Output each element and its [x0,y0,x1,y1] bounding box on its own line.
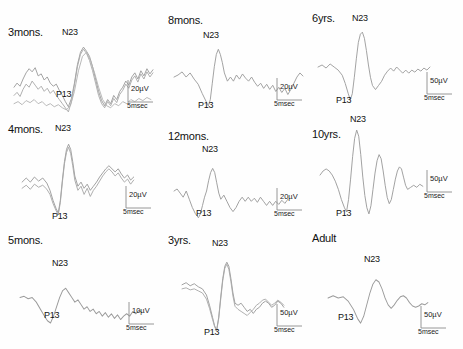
peak-label-p13: P13 [204,327,219,337]
calibration-time: 5msec [424,192,445,199]
calibration-time: 5msec [126,324,147,331]
panel-10yrs: 10yrs. N23 P13 50µV 5msec [312,118,460,230]
calibration-amplitude: 20µV [280,82,298,91]
calibration-bar-6yrs: 50µV 5msec [422,70,458,102]
peak-label-n23: N23 [202,144,218,154]
peak-label-n23: N23 [350,114,366,124]
calibration-bar-8mons: 20µV 5msec [272,76,308,108]
trace-line [174,168,288,217]
calibration-bar-12mons: 20µV 5msec [272,186,308,218]
trace-line [22,144,134,213]
calibration-amplitude: 50µV [430,174,448,183]
calibration-time: 5msec [424,94,445,101]
peak-label-p13: P13 [52,211,67,221]
panel-12mons: 12mons. N23 P13 20µV 5msec [168,130,316,230]
age-label-4mons: 4mons. [8,123,43,135]
calibration-time: 5msec [274,100,295,107]
age-label-8mons: 8mons. [168,14,203,26]
calibration-time: 5msec [274,326,295,333]
panel-3yrs: 3yrs. N23 P13 50µV 5msec [168,234,318,344]
calibration-amplitude: 20µV [131,84,149,93]
peak-label-p13: P13 [196,208,211,218]
peak-label-p13: P13 [338,312,353,322]
age-label-adult: Adult [312,232,336,244]
calibration-bar-10yrs: 50µV 5msec [422,168,458,200]
peak-label-p13: P13 [44,310,59,320]
panel-6yrs: 6yrs. N23 P13 50µV 5msec [312,12,460,120]
panel-4mons: 4mons. N23 P13 20µV 5msec [8,123,158,233]
peak-label-n23: N23 [55,123,71,133]
calibration-bar-5mons: 10µV 5msec [124,300,160,332]
waveform-10yrs [318,126,430,218]
peak-label-p13: P13 [336,208,351,218]
calibration-time: 5msec [127,102,148,109]
peak-label-p13: P13 [198,100,213,110]
calibration-amplitude: 50µV [430,76,448,85]
peak-label-n23: N23 [62,27,78,37]
calibration-time: 5msec [123,208,144,215]
calibration-amplitude: 20µV [129,190,147,199]
calibration-time: 5msec [418,328,439,335]
peak-label-n23: N23 [364,254,380,264]
calibration-bar-3mons: 20µV 5msec [123,78,159,110]
panel-8mons: 8mons. N23 P13 20µV 5msec [168,14,313,119]
calibration-amplitude: 50µV [280,308,298,317]
age-label-3mons: 3mons. [8,26,43,38]
trace-line [182,264,284,331]
calibration-bar-adult: 50µV 5msec [416,304,452,336]
calibration-time: 5msec [274,210,295,217]
age-label-6yrs: 6yrs. [312,12,335,24]
trace-line [318,32,430,100]
calibration-amplitude: 20µV [280,192,298,201]
peak-label-n23: N23 [52,258,68,268]
age-label-12mons: 12mons. [168,130,209,142]
calibration-amplitude: 50µV [424,310,442,319]
peak-label-p13: P13 [56,89,71,99]
trace-line [320,130,423,214]
peak-label-p13: P13 [336,95,351,105]
peak-label-n23: N23 [212,238,228,248]
calibration-bar-4mons: 20µV 5msec [121,184,157,216]
panel-adult: Adult N23 P13 50µV 5msec [312,232,462,344]
peak-label-n23: N23 [352,13,368,23]
age-label-3yrs: 3yrs. [168,234,191,246]
age-label-5mons: 5mons. [8,234,43,246]
sep-waveform-figure: 3mons. N23 P13 20µV 5msec 8mons. N23 P13 [0,0,463,349]
panel-5mons: 5mons. N23 P13 10µV 5msec [8,234,160,339]
peak-label-n23: N23 [203,30,219,40]
calibration-bar-3yrs: 50µV 5msec [272,302,308,334]
calibration-amplitude: 10µV [132,306,150,315]
waveform-6yrs [316,26,435,106]
panel-3mons: 3mons. N23 P13 20µV 5msec [8,26,158,126]
